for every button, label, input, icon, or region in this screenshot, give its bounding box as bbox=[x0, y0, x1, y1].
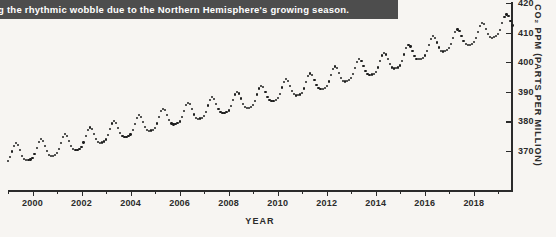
scatter-point bbox=[42, 140, 44, 142]
scatter-point bbox=[33, 153, 35, 155]
scatter-point bbox=[364, 70, 366, 72]
scatter-point bbox=[272, 100, 274, 102]
x-tick-label: 2008 bbox=[218, 198, 239, 208]
x-tick-minor bbox=[204, 190, 205, 194]
scatter-point bbox=[46, 150, 48, 152]
scatter-point bbox=[444, 50, 446, 52]
scatter-point bbox=[242, 103, 244, 105]
scatter-point bbox=[279, 93, 281, 95]
scatter-point bbox=[311, 74, 313, 76]
scatter-point bbox=[409, 45, 411, 47]
scatter-point bbox=[219, 111, 221, 113]
scatter-point bbox=[134, 123, 136, 125]
scatter-point bbox=[15, 142, 17, 144]
scatter-point bbox=[252, 104, 254, 106]
scatter-point bbox=[105, 138, 107, 140]
scatter-point bbox=[411, 50, 413, 52]
scatter-point bbox=[448, 47, 450, 49]
x-tick-label: 2018 bbox=[463, 198, 484, 208]
scatter-point bbox=[195, 117, 197, 119]
x-tick-label: 2016 bbox=[414, 198, 435, 208]
scatter-point bbox=[31, 157, 33, 159]
scatter-point bbox=[166, 114, 168, 116]
scatter-point bbox=[95, 138, 97, 140]
x-tick-minor bbox=[253, 190, 254, 194]
scatter-point bbox=[299, 93, 301, 95]
scatter-point bbox=[342, 80, 344, 82]
scatter-point bbox=[315, 84, 317, 86]
scatter-point bbox=[436, 41, 438, 43]
y-axis-line bbox=[511, 2, 513, 191]
scatter-point bbox=[201, 117, 203, 119]
scatter-point bbox=[505, 13, 507, 15]
scatter-point bbox=[142, 121, 144, 123]
scatter-point bbox=[403, 53, 405, 55]
scatter-point bbox=[9, 156, 11, 158]
scatter-point bbox=[354, 67, 356, 69]
scatter-point bbox=[205, 111, 207, 113]
scatter-point bbox=[183, 110, 185, 112]
x-tick-minor bbox=[57, 190, 58, 194]
y-tick-label: 380 bbox=[518, 116, 534, 126]
y-tick-label: 420 bbox=[518, 0, 534, 8]
scatter-point bbox=[78, 148, 80, 150]
scatter-point bbox=[371, 73, 373, 75]
scatter-point bbox=[13, 145, 15, 147]
scatter-point bbox=[426, 50, 428, 52]
scatter-point bbox=[352, 73, 354, 75]
scatter-point bbox=[379, 60, 381, 62]
scatter-point bbox=[434, 37, 436, 39]
scatter-point bbox=[70, 145, 72, 147]
scatter-point bbox=[495, 35, 497, 37]
y-tick-major bbox=[506, 92, 513, 93]
scatter-point bbox=[193, 113, 195, 115]
scatter-point bbox=[209, 99, 211, 101]
x-tick-label: 2006 bbox=[169, 198, 190, 208]
scatter-point bbox=[489, 36, 491, 38]
scatter-point bbox=[301, 92, 303, 94]
scatter-point bbox=[285, 78, 287, 80]
scatter-point bbox=[266, 96, 268, 98]
scatter-point bbox=[456, 28, 458, 30]
x-tick-label: 2014 bbox=[365, 198, 386, 208]
scatter-point bbox=[87, 129, 89, 131]
scatter-point bbox=[334, 65, 336, 67]
scatter-point bbox=[348, 79, 350, 81]
scatter-point bbox=[172, 123, 174, 125]
scatter-point bbox=[454, 31, 456, 33]
scatter-point bbox=[211, 96, 213, 98]
scatter-point bbox=[328, 80, 330, 82]
scatter-point bbox=[397, 66, 399, 68]
scatter-point bbox=[138, 114, 140, 116]
scatter-point bbox=[158, 116, 160, 118]
x-axis-line bbox=[8, 190, 513, 192]
scatter-point bbox=[289, 85, 291, 87]
scatter-point bbox=[373, 73, 375, 75]
scatter-point bbox=[330, 74, 332, 76]
scatter-point bbox=[366, 73, 368, 75]
scatter-point bbox=[82, 141, 84, 143]
scatter-point bbox=[228, 109, 230, 111]
scatter-point bbox=[305, 81, 307, 83]
scatter-point bbox=[246, 107, 248, 109]
scatter-point bbox=[268, 99, 270, 101]
scatter-point bbox=[340, 77, 342, 79]
scatter-point bbox=[264, 91, 266, 93]
scatter-point bbox=[217, 108, 219, 110]
scatter-point bbox=[99, 142, 101, 144]
y-tick-label: 390 bbox=[518, 87, 534, 97]
scatter-point bbox=[277, 97, 279, 99]
x-tick-minor bbox=[400, 190, 401, 194]
x-tick-minor bbox=[155, 190, 156, 194]
scatter-point bbox=[399, 64, 401, 66]
scatter-point bbox=[322, 88, 324, 90]
scatter-point bbox=[25, 159, 27, 161]
scatter-point bbox=[181, 116, 183, 118]
scatter-point bbox=[117, 127, 119, 129]
x-tick-major bbox=[376, 190, 377, 196]
scatter-point bbox=[270, 100, 272, 102]
x-tick-major bbox=[425, 190, 426, 196]
scatter-point bbox=[344, 80, 346, 82]
scatter-point bbox=[91, 128, 93, 130]
scatter-point bbox=[89, 126, 91, 128]
